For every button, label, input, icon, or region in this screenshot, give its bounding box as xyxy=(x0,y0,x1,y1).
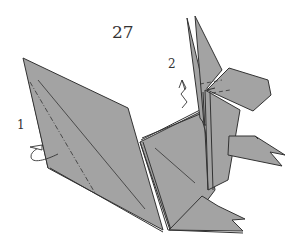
pleat-arrow-icon xyxy=(179,80,187,108)
origami-squirrel-diagram xyxy=(0,0,303,244)
arm xyxy=(228,136,285,166)
